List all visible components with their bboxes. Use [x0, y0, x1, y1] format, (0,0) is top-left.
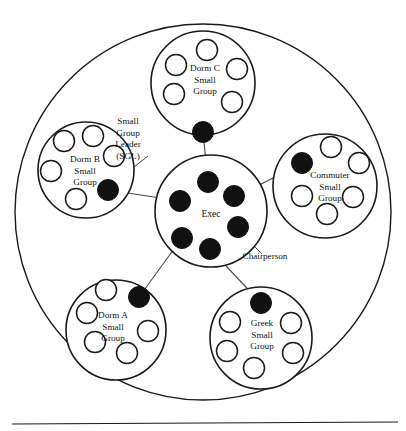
- dorm-c-small-group-member-5[interactable]: [222, 92, 243, 113]
- exec-member-left[interactable]: [170, 191, 191, 212]
- greek-small-group-member-5[interactable]: [244, 358, 265, 379]
- greek-small-group-member-3[interactable]: [217, 341, 238, 362]
- dorm-c-small-group-label: Dorm CSmallGroup: [190, 63, 220, 96]
- diagram-canvas: Dorm CSmallGroupDorm BSmallGroupCommuter…: [0, 0, 406, 431]
- dorm-a-small-group-member-1[interactable]: [96, 280, 117, 301]
- dorm-a-small-group-member-3[interactable]: [138, 321, 159, 342]
- chairperson-annotation-label: Chairperson: [243, 251, 288, 261]
- commuter-small-group-member-3[interactable]: [292, 186, 313, 207]
- dorm-b-leader[interactable]: [98, 180, 119, 201]
- dorm-b-small-group-member-5[interactable]: [66, 189, 87, 210]
- bottom-rule: [12, 422, 398, 424]
- dorm-c-leader[interactable]: [193, 122, 214, 143]
- org-diagram: Dorm CSmallGroupDorm BSmallGroupCommuter…: [0, 0, 406, 431]
- dorm-a-leader[interactable]: [129, 287, 150, 308]
- dorm-b-small-group-member-2[interactable]: [83, 126, 104, 147]
- commuter-small-group-member-5[interactable]: [317, 204, 338, 225]
- greek-leader[interactable]: [251, 293, 272, 314]
- exec-member-lower-left[interactable]: [172, 228, 193, 249]
- greek-small-group-label: GreekSmallGroup: [250, 318, 274, 351]
- greek-small-group-member-1[interactable]: [220, 312, 241, 333]
- dorm-c-small-group-member-4[interactable]: [164, 84, 185, 105]
- commuter-small-group-member-1[interactable]: [321, 137, 342, 158]
- exec-member-right[interactable]: [228, 217, 249, 238]
- exec-member-lower-right[interactable]: [200, 239, 221, 260]
- dorm-a-small-group-member-2[interactable]: [77, 303, 98, 324]
- dorm-c-small-group-member-2[interactable]: [166, 55, 187, 76]
- sgl-annotation-label: SmallGroupLeader(SGL): [115, 116, 141, 161]
- dorm-b-small-group-member-4[interactable]: [41, 161, 62, 182]
- exec-label: Exec: [201, 208, 220, 219]
- commuter-leader[interactable]: [292, 153, 313, 174]
- greek-small-group-member-2[interactable]: [281, 313, 302, 334]
- dorm-c-small-group-member-3[interactable]: [227, 59, 248, 80]
- exec-member-upper-right[interactable]: [224, 186, 245, 207]
- dorm-b-small-group-label: Dorm BSmallGroup: [70, 154, 100, 187]
- commuter-small-group-member-2[interactable]: [349, 153, 370, 174]
- dorm-b-small-group-member-1[interactable]: [54, 131, 75, 152]
- dorm-a-small-group-member-5[interactable]: [117, 343, 138, 364]
- dorm-c-small-group-member-1[interactable]: [197, 40, 218, 61]
- commuter-small-group-member-4[interactable]: [343, 187, 364, 208]
- greek-small-group-member-4[interactable]: [283, 343, 304, 364]
- exec-member-top[interactable]: [198, 172, 219, 193]
